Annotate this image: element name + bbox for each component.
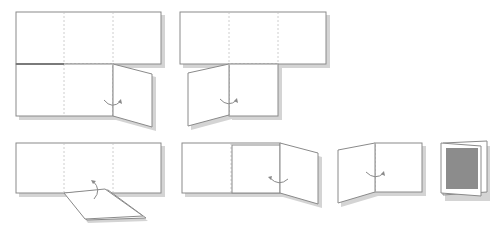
folding-flap [338,143,375,203]
folding-flap [188,64,229,126]
cover-print [446,148,478,189]
bottom-panels [16,64,113,116]
top-panel [180,12,326,64]
step-3-fold-bottom-flap [16,143,165,223]
strip [16,143,161,193]
bottom-square [229,64,278,116]
step-1-fold-right-flap [16,12,165,131]
step-4-fold-right-panel [182,143,322,208]
folding-flap [113,64,152,127]
folded-square [232,145,280,193]
top-panel [16,12,161,64]
step-5-fold-left-panel [338,143,426,207]
base-square [375,143,422,192]
step-6-finished-booklet [441,141,490,201]
folding-diagram [0,0,501,233]
step-2-fold-left-flap [180,12,330,130]
folding-flap [280,143,318,204]
